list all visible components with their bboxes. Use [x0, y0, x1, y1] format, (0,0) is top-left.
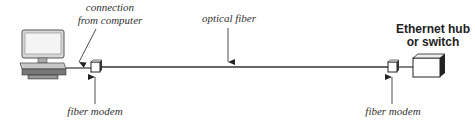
computer-icon	[20, 30, 66, 79]
fiber-modem-right-label: fiber modem	[365, 105, 420, 117]
connection-label-line1: connection	[86, 1, 135, 13]
connection-arrow	[79, 29, 96, 62]
hub-label-line2: or switch	[407, 35, 460, 49]
hub-label-line1: Ethernet hub	[396, 22, 470, 36]
connection-label-line2: from computer	[78, 14, 143, 26]
optical-fiber-label: optical fiber	[202, 12, 257, 24]
fiber-modem-left-label: fiber modem	[67, 105, 122, 117]
fiber-modem-right	[388, 60, 399, 72]
fiber-modem-left	[91, 60, 102, 72]
network-diagram: connection from computer optical fiber f…	[0, 0, 475, 125]
ethernet-hub-icon	[413, 54, 445, 77]
